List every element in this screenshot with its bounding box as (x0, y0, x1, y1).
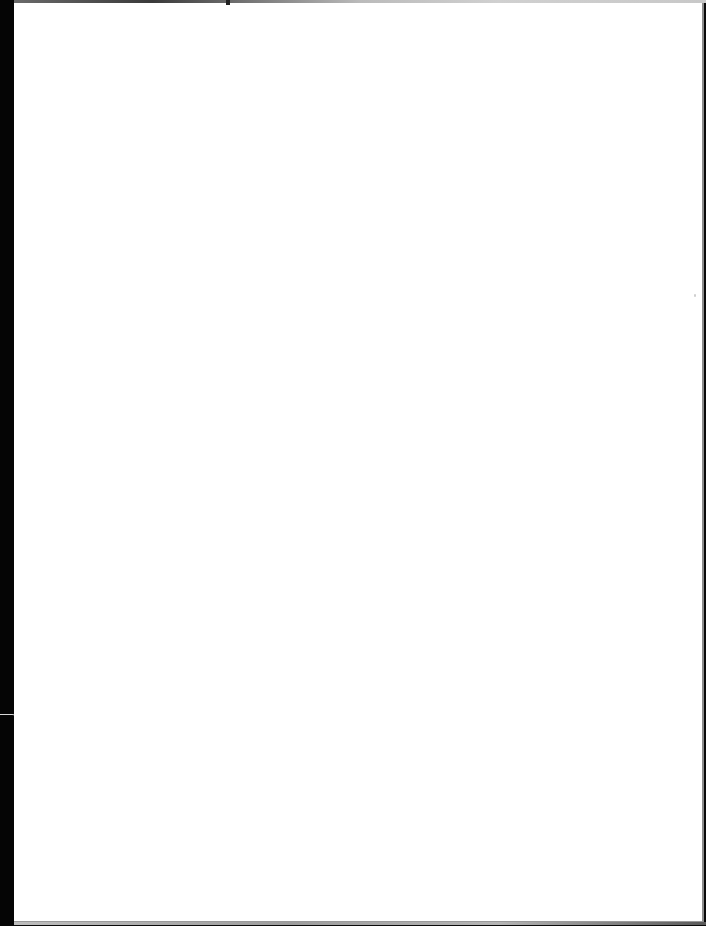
top-edge-mark (226, 0, 230, 5)
scanner-bed-edge (0, 0, 14, 926)
dust-speck (694, 294, 696, 297)
scanned-page (0, 0, 706, 926)
top-edge-shadow (14, 0, 706, 3)
bottom-edge-shadow (14, 922, 706, 925)
blank-paper-sheet (14, 1, 704, 923)
